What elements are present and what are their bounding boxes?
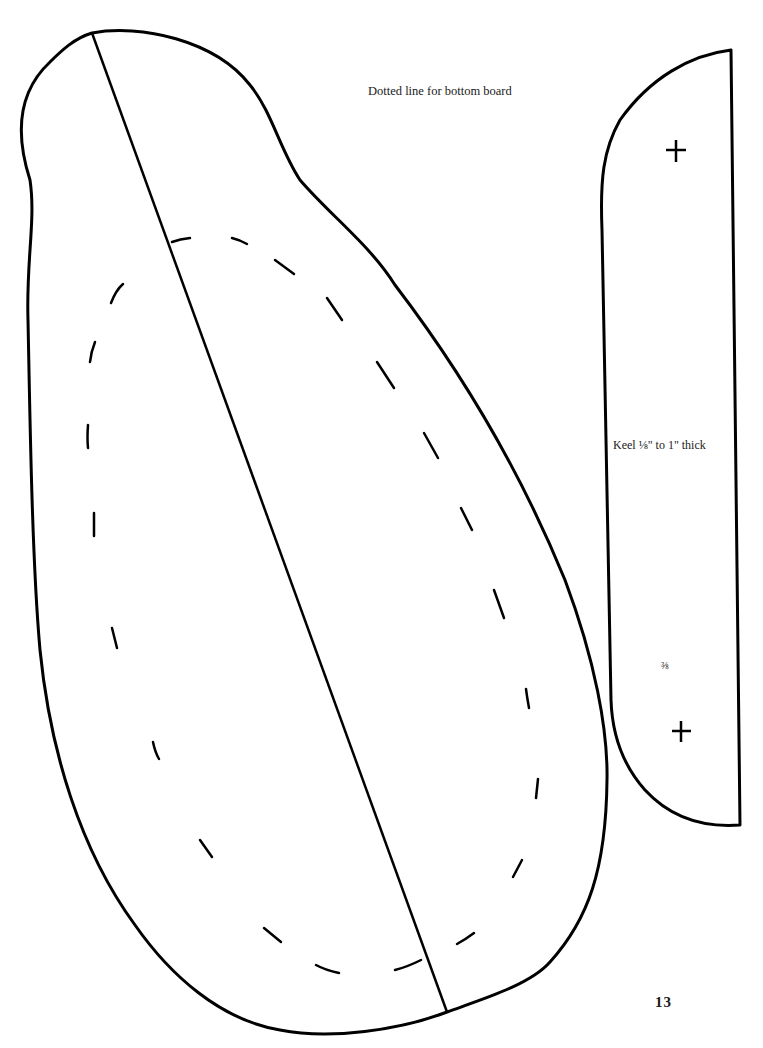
keel-thickness-caption: Keel ⅛" to 1" thick	[613, 438, 706, 453]
hull-outline	[21, 31, 607, 1034]
pattern-artwork	[0, 0, 763, 1048]
pattern-page: Dotted line for bottom board Keel ⅛" to …	[0, 0, 763, 1048]
keel-fraction-mark: ⅜	[661, 660, 669, 671]
plus-mark-bottom-icon	[672, 721, 691, 742]
bottom-board-caption: Dotted line for bottom board	[368, 84, 512, 99]
plus-mark-top-icon	[666, 140, 686, 162]
page-number: 13	[655, 994, 672, 1011]
bottom-board-dotted-line	[88, 238, 539, 973]
hull-center-line	[92, 33, 447, 1012]
